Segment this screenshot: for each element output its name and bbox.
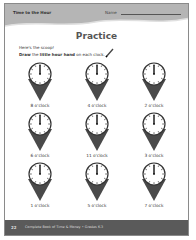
page-title: Practice xyxy=(5,31,188,41)
instruction-part: on each clock. xyxy=(75,52,105,57)
footer-band: 22 Complete Book of Time & Money • Grade… xyxy=(5,220,188,235)
book-title: Complete Book of Time & Money • Grades K… xyxy=(25,225,103,229)
worksheet-page: Time to the Hour Name Practice Here's th… xyxy=(4,3,189,236)
section-title: Time to the Hour xyxy=(13,10,51,15)
clock-item[interactable]: 5 o'clock xyxy=(72,162,122,212)
clock-label: 4 o'clock xyxy=(72,103,122,108)
header-wave-icon xyxy=(5,4,189,30)
intro-text: Here's the scoop! xyxy=(19,45,54,50)
clock-item[interactable]: 7 o'clock xyxy=(129,162,179,212)
ice-cream-clock-icon xyxy=(82,62,112,102)
clock-label: 6 o'clock xyxy=(15,153,65,158)
clock-item[interactable]: 1 o'clock xyxy=(15,162,65,212)
ice-cream-clock-icon xyxy=(139,162,169,202)
instruction-verb: Draw xyxy=(19,52,31,57)
name-field[interactable] xyxy=(121,14,181,15)
clock-label: 5 o'clock xyxy=(72,203,122,208)
clock-label: 7 o'clock xyxy=(129,203,179,208)
clock-label: 11 o'clock xyxy=(72,153,122,158)
ice-cream-clock-icon xyxy=(82,112,112,152)
clock-item[interactable]: 8 o'clock xyxy=(15,62,65,112)
ice-cream-clock-icon xyxy=(139,112,169,152)
instruction-emphasis: little hour hand xyxy=(40,52,75,57)
ice-cream-clock-icon xyxy=(25,112,55,152)
instruction-part: the xyxy=(31,52,40,57)
clock-label: 3 o'clock xyxy=(129,153,179,158)
pencil-icon xyxy=(105,48,115,58)
ice-cream-clock-icon xyxy=(139,62,169,102)
clock-label: 2 o'clock xyxy=(129,103,179,108)
instruction-text: Draw the little hour hand on each clock. xyxy=(19,52,105,57)
ice-cream-clock-icon xyxy=(25,62,55,102)
clock-item[interactable]: 6 o'clock xyxy=(15,112,65,162)
ice-cream-clock-icon xyxy=(25,162,55,202)
clock-label: 1 o'clock xyxy=(15,203,65,208)
clock-item[interactable]: 3 o'clock xyxy=(129,112,179,162)
page-number: 22 xyxy=(11,225,17,230)
clock-label: 8 o'clock xyxy=(15,103,65,108)
ice-cream-clock-icon xyxy=(82,162,112,202)
name-label: Name xyxy=(105,10,117,15)
clock-item[interactable]: 11 o'clock xyxy=(72,112,122,162)
clock-item[interactable]: 2 o'clock xyxy=(129,62,179,112)
header-band: Time to the Hour Name xyxy=(5,4,188,30)
clock-item[interactable]: 4 o'clock xyxy=(72,62,122,112)
